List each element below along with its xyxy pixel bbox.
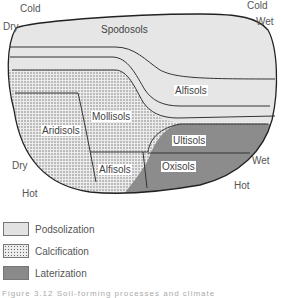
region-ultisols: Ultisols	[172, 135, 206, 146]
calcification-swatch	[3, 244, 29, 258]
figure-caption: Figure 3.12 Soil-forming processes and c…	[2, 289, 215, 298]
region-oxisols: Oxisols	[161, 161, 196, 172]
legend-label: Podsolization	[35, 224, 94, 235]
label-top-right-wet: Wet	[256, 16, 274, 27]
region-mollisols: Mollisols	[91, 111, 131, 122]
laterization-swatch	[3, 266, 29, 280]
label-top-right-cold: Cold	[247, 0, 268, 11]
region-aridisols: Aridisols	[41, 125, 81, 136]
label-bottom-left-dry: Dry	[12, 160, 28, 171]
podsolization-swatch	[3, 222, 29, 236]
label-top-left-cold: Cold	[20, 3, 41, 14]
label-bottom-right-wet: Wet	[252, 155, 270, 166]
region-alfisols-upper: Alfisols	[174, 85, 208, 96]
legend-item-podsolization: Podsolization	[3, 222, 94, 236]
label-bottom-left-hot: Hot	[22, 188, 38, 199]
legend-label: Calcification	[35, 246, 89, 257]
label-bottom-right-hot: Hot	[234, 180, 250, 191]
legend-label: Laterization	[35, 268, 87, 279]
legend-item-laterization: Laterization	[3, 266, 87, 280]
legend-item-calcification: Calcification	[3, 244, 89, 258]
region-alfisols-lower: Alfisols	[98, 164, 132, 175]
label-top-left-dry: Dry	[3, 21, 19, 32]
region-spodosols: Spodosols	[100, 24, 149, 35]
